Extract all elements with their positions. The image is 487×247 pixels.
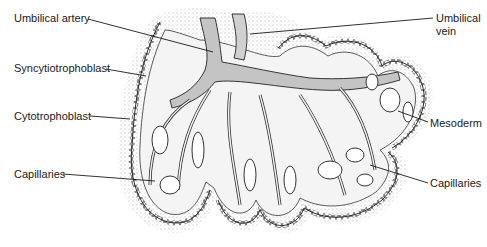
label-capillaries-right: Capillaries — [430, 177, 481, 190]
label-umbilical-vein-2: vein — [436, 25, 456, 38]
label-umbilical-artery: Umbilical artery — [14, 12, 90, 25]
label-mesoderm: Mesoderm — [430, 117, 482, 130]
label-cytotrophoblast: Cytotrophoblast — [14, 110, 91, 123]
villus-illustration — [0, 0, 487, 247]
placental-villus-diagram: Umbilical arteryUmbilicalveinSyncytiotro… — [0, 0, 487, 247]
label-syncytiotrophoblast: Syncytiotrophoblast — [14, 62, 110, 75]
label-umbilical-vein-1: Umbilical — [436, 12, 481, 25]
label-capillaries-left: Capillaries — [14, 168, 65, 181]
